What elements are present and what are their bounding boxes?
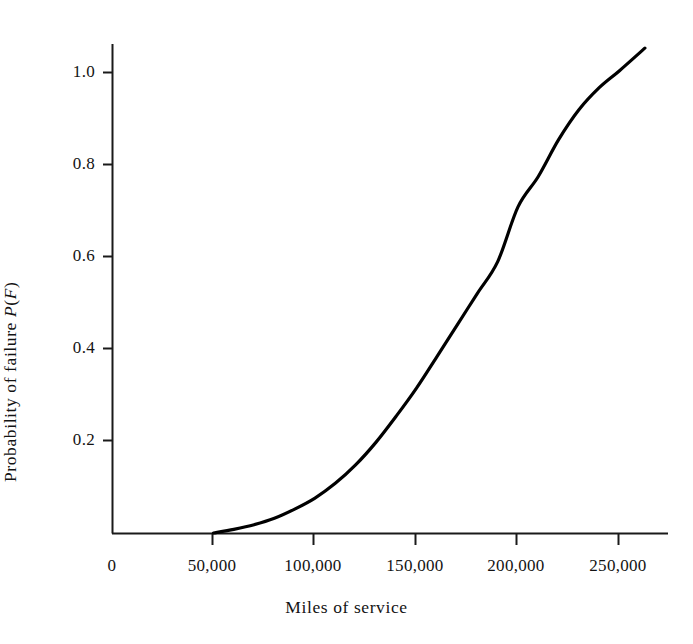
x-axis-title: Miles of service [0, 597, 693, 618]
x-tick-label-50000: 50,000 [157, 556, 267, 576]
chart-plot-area [0, 0, 693, 644]
y-axis-title-paren-open: ( [0, 299, 20, 305]
y-tick-label-1-0: 1.0 [40, 62, 95, 82]
y-tick-label-0-4: 0.4 [40, 338, 95, 358]
y-axis-ticks [103, 73, 112, 441]
failure-probability-curve [214, 48, 645, 533]
x-tick-label-250000: 250,000 [558, 556, 678, 576]
y-axis-title-lead: Probability of failure [0, 317, 20, 482]
y-tick-label-0-6: 0.6 [40, 246, 95, 266]
y-tick-label-0-8: 0.8 [40, 154, 95, 174]
y-axis-title-paren-close: ) [0, 282, 20, 288]
y-tick-label-0-2: 0.2 [40, 430, 95, 450]
x-tick-label-0: 0 [82, 556, 142, 576]
y-axis-title-symbol-p: P [0, 306, 20, 317]
y-axis-title: Probability of failure P(F) [0, 0, 218, 21]
y-axis-title-symbol-f: F [0, 288, 20, 299]
figure-container: 1.0 0.8 0.6 0.4 0.2 0 50,000 100,000 150… [0, 0, 693, 644]
x-axis-ticks [213, 533, 619, 545]
